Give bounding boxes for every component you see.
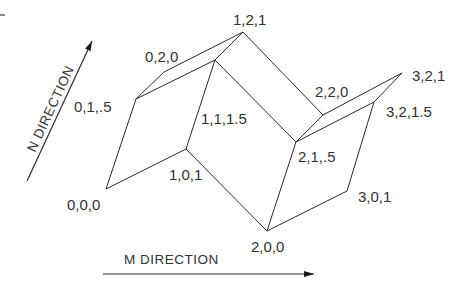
vertex-label-2-2-0: 2,2,0 [315,83,348,100]
vertex-label-3-0-1: 3,0,1 [358,188,391,205]
vertex-label-0-1-0.5: 0,1,.5 [74,98,112,115]
vertex-label-1-1-1.5: 1,1,1.5 [201,110,247,127]
edge-v200-v301 [267,191,347,231]
vertex-label-0-0-0: 0,0,0 [67,196,100,213]
edge-v321h-v301 [347,102,374,191]
vertex-label-1-2-1: 1,2,1 [233,11,266,28]
vertex-labels: 0,0,0 1,0,1 0,1,.5 0,2,0 1,2,1 1,1,1.5 2… [67,11,445,255]
vertex-label-2-0-0: 2,0,0 [251,238,284,255]
edge-v01h-v020 [136,72,164,99]
edge-v321-v321h [374,73,402,102]
vertex-label-0-2-0: 0,2,0 [145,48,178,65]
edge-v121-v111h [215,32,243,60]
m-direction-label: M DIRECTION [124,252,219,267]
surface-diagram: 0,0,0 1,0,1 0,1,.5 0,2,0 1,2,1 1,1,1.5 2… [0,0,466,286]
n-direction-label: N DIRECTION [24,63,77,154]
vertex-label-2-1-0.5: 2,1,.5 [298,148,336,165]
edge-v21h-v321h [296,102,374,142]
vertex-label-1-0-1: 1,0,1 [169,166,202,183]
vertex-label-3-2-1: 3,2,1 [412,67,445,84]
edge-v121-v220 [243,32,323,115]
edge-v101-v200 [186,149,267,231]
vertex-label-3-2-1.5: 3,2,1.5 [386,103,432,120]
edge-v220-v21h [296,115,323,142]
edge-v101-v111h [186,60,215,149]
edge-v21h-v200 [267,142,296,231]
edge-v111h-v21h [215,60,296,142]
